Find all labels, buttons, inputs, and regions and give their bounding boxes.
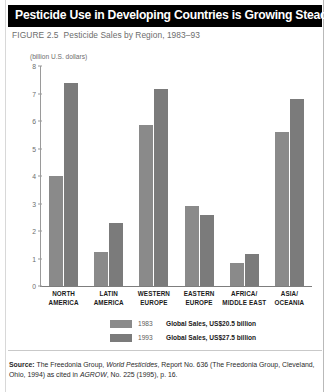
legend-year-label: 1983 (138, 320, 153, 327)
category-label-line: ASIA/ (261, 290, 318, 299)
bar-group (267, 66, 312, 286)
legend-note-label: Global Sales, US$20.5 billion (166, 320, 256, 327)
bar-group (177, 66, 222, 286)
figure-caption-text: Pesticide Sales by Region, 1983–93 (64, 30, 200, 40)
figure-page: Pesticide Use in Developing Countries is… (0, 0, 335, 392)
x-axis-category-label: ASIA/OCEANIA (261, 290, 318, 307)
figure-caption: FIGURE 2.5Pesticide Sales by Region, 198… (12, 30, 200, 40)
legend-swatch (110, 334, 132, 342)
bar-1993 (200, 215, 214, 287)
source-note: Source: The Freedonia Group, World Pesti… (9, 360, 317, 380)
bar-1993 (154, 89, 168, 286)
chart-plot-area: 012345678 (22, 66, 312, 289)
header-banner: Pesticide Use in Developing Countries is… (8, 5, 322, 27)
y-axis-tick-label: 2 (22, 228, 36, 235)
source-divider (8, 350, 322, 351)
bars-layer (41, 66, 312, 286)
bar-1983 (275, 132, 289, 286)
bar-1993 (64, 83, 78, 287)
legend-note-label: Global Sales, US$27.5 billion (166, 334, 256, 341)
y-axis-tick-label: 8 (22, 63, 36, 70)
x-axis-category-labels: NORTHAMERICALATINAMERICAWESTERNEUROPEEAS… (22, 290, 312, 316)
source-part-1: The Freedonia Group, (35, 361, 107, 368)
bar-1993 (109, 223, 123, 286)
y-axis-tick-label: 3 (22, 200, 36, 207)
y-axis-unit-label: (billion U.S. dollars) (30, 53, 87, 60)
figure-number: FIGURE 2.5 (12, 30, 59, 40)
y-axis-tick-label: 1 (22, 255, 36, 262)
y-axis-tick-label: 6 (22, 118, 36, 125)
source-part-3: , No. 225 (1995), p. 16. (107, 371, 178, 378)
y-axis-tick-label: 5 (22, 145, 36, 152)
bar-1993 (290, 99, 304, 286)
source-italic-2: AGROW (80, 371, 107, 378)
bar-1983 (230, 263, 244, 286)
bar-group (41, 66, 86, 286)
page-right-rule (323, 0, 324, 392)
y-axis-tick-label: 7 (22, 90, 36, 97)
bar-1983 (139, 125, 153, 286)
source-label: Source: (9, 361, 35, 368)
bar-1983 (49, 176, 63, 286)
page-left-rule (5, 0, 6, 392)
legend-swatch (110, 320, 132, 328)
bar-1993 (245, 254, 259, 286)
x-axis-line (40, 286, 312, 287)
y-axis-tick-label: 0 (22, 283, 36, 290)
bar-group (86, 66, 131, 286)
bar-1983 (94, 252, 108, 286)
bar-1983 (185, 206, 199, 286)
bar-group (131, 66, 176, 286)
category-label-line: OCEANIA (261, 299, 318, 308)
y-axis-tick-label: 4 (22, 173, 36, 180)
bar-group (222, 66, 267, 286)
legend-year-label: 1993 (138, 334, 153, 341)
source-italic-1: World Pesticides (106, 361, 157, 368)
page-title: Pesticide Use in Developing Countries is… (15, 8, 335, 22)
